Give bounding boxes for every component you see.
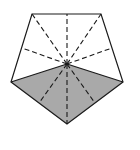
dashed-radii (22, 14, 112, 124)
pentagon-diagram (0, 0, 140, 150)
